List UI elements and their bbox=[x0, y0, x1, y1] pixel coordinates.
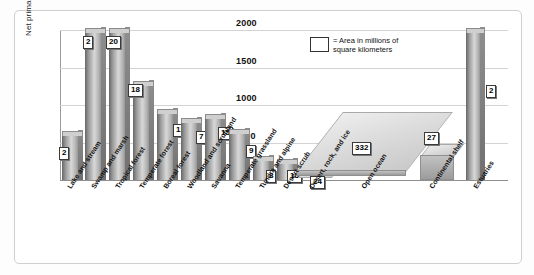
legend-swatch-icon bbox=[310, 37, 329, 52]
y-axis-title-text: Net primary production (dry g/m²/yr) bbox=[24, 0, 33, 36]
bar-top-woodland-and-scrubland bbox=[181, 118, 202, 123]
y-axis-title: Net primary production (dry g/m²/yr) bbox=[24, 0, 33, 36]
area-callout-continental-shelf: 27 bbox=[424, 132, 439, 145]
legend-text-line2: square kilometers bbox=[333, 45, 398, 54]
area-callout-estuaries: 2 bbox=[486, 85, 496, 98]
area-callout-swamp-and-marsh: 2 bbox=[83, 36, 93, 49]
bar-side-tropical-forest bbox=[125, 27, 130, 180]
tick-label-1500: 1500 bbox=[236, 56, 257, 66]
area-callout-open-ocean: 332 bbox=[352, 142, 371, 155]
bar-top-lake-and-stream bbox=[62, 131, 83, 136]
chart-figure: Net primary production (dry g/m²/yr) 200… bbox=[0, 0, 534, 275]
area-callout-tropical-forest: 20 bbox=[106, 36, 121, 49]
tick-label-1000: 1000 bbox=[236, 93, 257, 103]
area-callout-temperate-forest: 18 bbox=[128, 84, 143, 97]
bar-top-savanna bbox=[205, 114, 226, 119]
bar-top-estuaries bbox=[466, 28, 485, 33]
tick-label-2000: 2000 bbox=[236, 18, 257, 28]
bar-estuaries bbox=[466, 32, 481, 180]
bar-top-swamp-and-marsh bbox=[85, 28, 106, 33]
legend-text: = Area in millions of square kilometers bbox=[333, 36, 398, 54]
slab-front-open-ocean bbox=[296, 170, 406, 176]
bar-top-temperate-grassland bbox=[229, 129, 250, 134]
bar-side-estuaries bbox=[480, 27, 485, 180]
bar-top-boreal-forest bbox=[157, 109, 178, 114]
legend-text-line1: = Area in millions of bbox=[333, 36, 398, 45]
bar-side-swamp-and-marsh bbox=[101, 27, 106, 180]
bar-top-tropical-forest bbox=[109, 28, 130, 33]
area-callout-lake-and-stream: 2 bbox=[59, 147, 69, 160]
legend: = Area in millions of square kilometers bbox=[310, 36, 398, 54]
